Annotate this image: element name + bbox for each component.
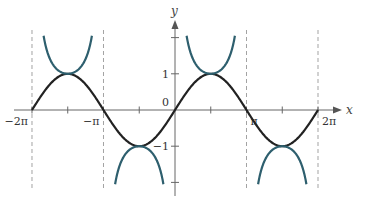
y-tick-label: 0 — [162, 96, 169, 109]
x-axis-label: x — [346, 103, 353, 117]
x-tick-label: −2π — [5, 115, 28, 128]
csc-branch — [187, 36, 235, 74]
x-tick-label: −π — [83, 115, 99, 128]
csc-branch — [258, 146, 306, 184]
y-axis-label: y — [170, 4, 178, 18]
csc-branch — [44, 36, 92, 74]
chart: x y −2π−ππ2π10−1 — [0, 0, 366, 203]
x-axis-arrow-icon — [333, 107, 342, 114]
y-tick-label: −1 — [153, 140, 169, 153]
y-tick-label: 1 — [162, 68, 169, 81]
y-axis-arrow-icon — [172, 20, 179, 29]
x-tick-label: 2π — [322, 115, 336, 128]
